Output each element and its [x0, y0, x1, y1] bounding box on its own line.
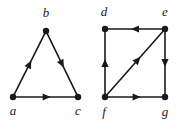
- arrowheads-layer: [24, 25, 168, 100]
- node-labels-layer: abcdefg: [10, 4, 169, 119]
- node-label-c: c: [75, 103, 81, 118]
- arrowhead-a-c: [43, 93, 51, 100]
- node-label-b: b: [43, 5, 50, 20]
- node-g: [162, 94, 168, 100]
- node-d: [102, 26, 108, 32]
- node-f: [102, 94, 108, 100]
- node-label-d: d: [101, 4, 108, 19]
- node-label-a: a: [10, 103, 17, 118]
- node-label-g: g: [162, 104, 169, 119]
- edges-layer: [14, 29, 165, 97]
- arrowhead-e-d: [131, 25, 139, 32]
- arrowhead-f-d: [101, 59, 108, 67]
- node-label-f: f: [102, 104, 108, 119]
- figure-root: abcdefg: [0, 0, 177, 124]
- nodes-layer: [10, 26, 168, 100]
- arrowhead-f-g: [133, 93, 141, 100]
- node-a: [10, 94, 16, 100]
- arrowhead-e-g: [161, 59, 168, 67]
- node-c: [75, 94, 81, 100]
- node-b: [43, 28, 49, 34]
- node-label-e: e: [162, 4, 168, 19]
- graph-canvas: abcdefg: [0, 0, 177, 124]
- edge-f-e: [107, 31, 164, 95]
- node-e: [162, 26, 168, 32]
